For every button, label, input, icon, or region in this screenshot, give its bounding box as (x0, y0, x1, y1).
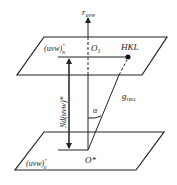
hkl-point (126, 55, 131, 60)
axis-label: ruvw (82, 7, 95, 18)
hkl-label: HKL (120, 42, 139, 52)
reciprocal-lattice-diagram: ruvw (uvw)*N O1 HKL gHKL α Nd(uvw)* O* (… (0, 0, 177, 185)
lower-plane-label: (uvw)*0 (26, 158, 47, 170)
angle-label: α (93, 106, 98, 115)
distance-label: Nd(uvw)* (59, 96, 68, 129)
origin-lower-label: O* (85, 155, 96, 165)
angle-arc (88, 116, 101, 118)
g-vector-label: gHKL (122, 91, 136, 102)
